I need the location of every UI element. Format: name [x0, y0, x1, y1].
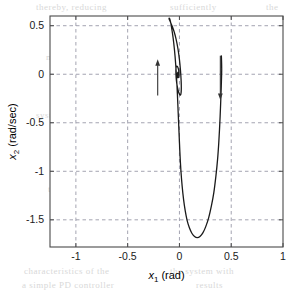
x-axis-label-text: x1 (rad) — [147, 269, 184, 284]
y-tick-label: 0.5 — [29, 19, 44, 31]
x-tick-label: -1 — [71, 250, 80, 262]
x-axis-unit-text: (rad) — [161, 269, 184, 281]
y-axis-label: x2 (rad/sec) — [6, 103, 21, 160]
y-tick-label: -0.5 — [26, 116, 44, 128]
chart-canvas: -1-0.500.510.50-0.5-1-1.5x1 (rad)x2 (rad… — [0, 0, 295, 293]
y-tick-label: -1 — [35, 165, 44, 177]
y-tick-label: 0 — [38, 68, 44, 80]
x-tick-label: 0 — [177, 250, 183, 262]
y-axis-unit-text: (rad/sec) — [6, 103, 18, 146]
plot-background — [50, 16, 283, 247]
x-tick-label: -0.5 — [119, 250, 137, 262]
x-tick-label: 0.5 — [224, 250, 239, 262]
x-tick-label: 1 — [280, 250, 286, 262]
phase-plane-figure: thereby, reducingsufficientlythesliding … — [0, 0, 295, 293]
y-tick-label: -1.5 — [26, 213, 44, 225]
x-axis-label: x1 (rad) — [147, 269, 184, 284]
x-tick-labels: -1-0.500.51 — [71, 250, 286, 262]
y-tick-labels: 0.50-0.5-1-1.5 — [26, 19, 44, 225]
y-axis-label-text: x2 (rad/sec) — [6, 103, 21, 160]
